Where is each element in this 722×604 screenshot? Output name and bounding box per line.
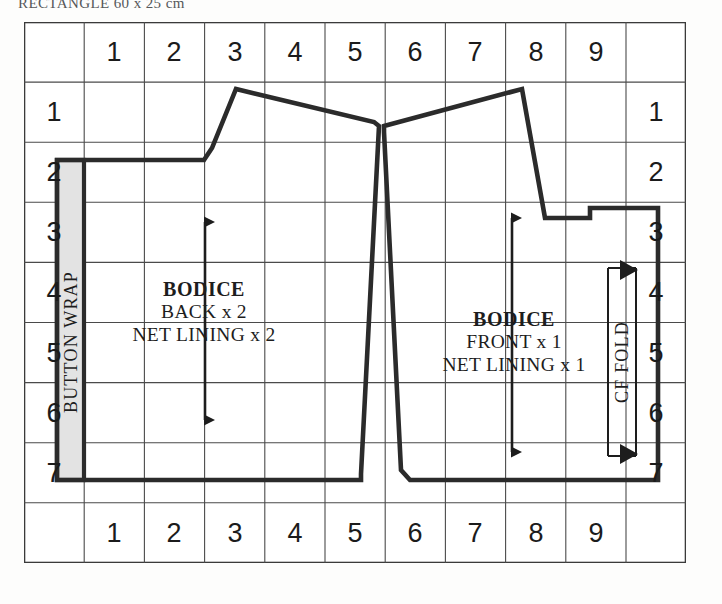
cf-fold-label: CF FOLD bbox=[612, 321, 633, 403]
ruler-right-7: 7 bbox=[626, 460, 686, 487]
ruler-bottom-4: 4 bbox=[265, 520, 325, 547]
bodice-front-line3: NET LINING x 1 bbox=[442, 354, 585, 377]
ruler-bottom-5: 5 bbox=[325, 520, 385, 547]
ruler-top-7: 7 bbox=[445, 39, 505, 66]
ruler-right-1: 1 bbox=[626, 99, 686, 126]
ruler-bottom-7: 7 bbox=[445, 520, 505, 547]
bodice-back-line3: NET LINING x 2 bbox=[132, 324, 275, 347]
ruler-bottom-8: 8 bbox=[506, 520, 566, 547]
cutting-layout-grid: 1 2 3 4 5 6 7 8 9 1 2 3 4 5 6 7 8 9 1 2 … bbox=[24, 22, 686, 563]
bodice-front-label: BODICE FRONT x 1 NET LINING x 1 bbox=[442, 308, 585, 376]
ruler-top-8: 8 bbox=[506, 39, 566, 66]
pattern-layout-page: RECTANGLE 60 x 25 cm bbox=[0, 0, 722, 604]
ruler-left-7: 7 bbox=[24, 460, 84, 487]
ruler-top-5: 5 bbox=[325, 39, 385, 66]
ruler-left-1: 1 bbox=[24, 99, 84, 126]
ruler-top-3: 3 bbox=[205, 39, 265, 66]
bodice-back-label: BODICE BACK x 2 NET LINING x 2 bbox=[132, 278, 275, 346]
grid-lines bbox=[24, 22, 686, 563]
button-wrap-label: BUTTON WRAP bbox=[61, 271, 82, 413]
ruler-top-6: 6 bbox=[385, 39, 445, 66]
bodice-front-title: BODICE bbox=[442, 308, 585, 331]
bodice-front-line2: FRONT x 1 bbox=[442, 331, 585, 354]
page-caption: RECTANGLE 60 x 25 cm bbox=[18, 0, 185, 12]
ruler-right-5: 5 bbox=[626, 340, 686, 367]
ruler-top-4: 4 bbox=[265, 39, 325, 66]
ruler-right-4: 4 bbox=[626, 279, 686, 306]
ruler-left-3: 3 bbox=[24, 219, 84, 246]
bodice-back-line2: BACK x 2 bbox=[132, 301, 275, 324]
ruler-top-1: 1 bbox=[84, 39, 144, 66]
ruler-bottom-1: 1 bbox=[84, 520, 144, 547]
bodice-back-title: BODICE bbox=[132, 278, 275, 301]
ruler-right-3: 3 bbox=[626, 219, 686, 246]
ruler-right-6: 6 bbox=[626, 400, 686, 427]
ruler-bottom-9: 9 bbox=[566, 520, 626, 547]
ruler-right-2: 2 bbox=[626, 159, 686, 186]
ruler-left-2: 2 bbox=[24, 159, 84, 186]
ruler-bottom-2: 2 bbox=[144, 520, 204, 547]
ruler-bottom-3: 3 bbox=[205, 520, 265, 547]
ruler-top-2: 2 bbox=[144, 39, 204, 66]
ruler-top-9: 9 bbox=[566, 39, 626, 66]
ruler-bottom-6: 6 bbox=[385, 520, 445, 547]
